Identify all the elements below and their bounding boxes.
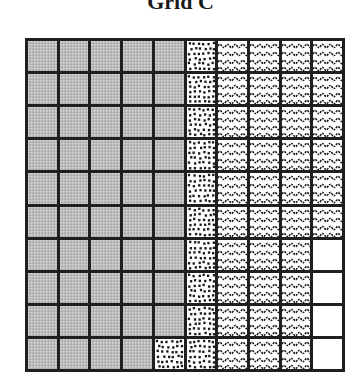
grid-cell-gray — [123, 306, 152, 336]
grid-cell-wavy — [282, 240, 311, 270]
grid-cell-gray — [60, 41, 89, 71]
grid-cell-wavy — [282, 306, 311, 336]
grid-cell-gray — [155, 240, 184, 270]
grid-cell-gray — [28, 240, 57, 270]
grid-cell-wavy — [218, 140, 247, 170]
grid-cell-wavy — [313, 107, 342, 137]
grid-cell-dotted — [187, 107, 216, 137]
grid-cell-gray — [155, 273, 184, 303]
hundred-grid — [25, 38, 345, 372]
grid-cell-wavy — [282, 339, 311, 369]
grid-cell-wavy — [282, 107, 311, 137]
grid-cell-gray — [123, 173, 152, 203]
grid-cell-gray — [91, 339, 120, 369]
grid-cell-dotted — [187, 339, 216, 369]
grid-cell-white — [313, 339, 342, 369]
grid-cell-gray — [28, 273, 57, 303]
grid-cell-dotted — [187, 41, 216, 71]
grid-cell-wavy — [282, 41, 311, 71]
grid-cell-gray — [123, 273, 152, 303]
grid-cell-gray — [91, 173, 120, 203]
grid-cell-gray — [60, 74, 89, 104]
grid-cell-wavy — [250, 41, 279, 71]
grid-cell-gray — [28, 173, 57, 203]
grid-cell-gray — [91, 107, 120, 137]
grid-cell-wavy — [313, 74, 342, 104]
grid-cell-gray — [60, 173, 89, 203]
grid-cell-wavy — [282, 207, 311, 237]
grid-cell-wavy — [250, 207, 279, 237]
grid-cell-white — [313, 306, 342, 336]
grid-cell-gray — [123, 41, 152, 71]
grid-cell-gray — [91, 306, 120, 336]
grid-cell-wavy — [218, 306, 247, 336]
grid-cell-white — [313, 273, 342, 303]
grid-cell-wavy — [313, 140, 342, 170]
grid-cell-wavy — [250, 306, 279, 336]
grid-cell-gray — [28, 41, 57, 71]
grid-cell-wavy — [218, 273, 247, 303]
grid-cell-white — [313, 240, 342, 270]
grid-cell-wavy — [218, 207, 247, 237]
grid-cell-wavy — [250, 74, 279, 104]
grid-cell-gray — [91, 207, 120, 237]
grid-cell-wavy — [313, 173, 342, 203]
grid-cell-gray — [28, 339, 57, 369]
grid-cell-gray — [60, 140, 89, 170]
grid-cell-dotted — [187, 273, 216, 303]
grid-cell-wavy — [218, 240, 247, 270]
grid-cell-dotted — [187, 74, 216, 104]
grid-cell-gray — [28, 207, 57, 237]
grid-cell-gray — [91, 74, 120, 104]
grid-cell-gray — [28, 140, 57, 170]
grid-cell-wavy — [218, 339, 247, 369]
grid-cell-gray — [91, 140, 120, 170]
grid-cell-gray — [60, 107, 89, 137]
grid-cell-gray — [155, 173, 184, 203]
grid-cell-wavy — [250, 140, 279, 170]
grid-cell-dotted — [187, 207, 216, 237]
grid-cell-gray — [155, 107, 184, 137]
grid-cell-gray — [123, 74, 152, 104]
grid-cell-gray — [60, 339, 89, 369]
grid-cell-wavy — [250, 273, 279, 303]
grid-cell-gray — [123, 107, 152, 137]
grid-cell-wavy — [250, 173, 279, 203]
grid-cell-gray — [123, 140, 152, 170]
grid-cell-wavy — [250, 240, 279, 270]
grid-cell-wavy — [282, 140, 311, 170]
grid-cell-gray — [155, 41, 184, 71]
grid-cell-gray — [60, 240, 89, 270]
grid-cell-gray — [60, 207, 89, 237]
grid-title: Grid C — [0, 0, 361, 15]
grid-cell-wavy — [282, 273, 311, 303]
grid-cell-dotted — [187, 240, 216, 270]
grid-cell-wavy — [250, 107, 279, 137]
grid-cell-wavy — [218, 74, 247, 104]
grid-cell-gray — [60, 306, 89, 336]
grid-cell-gray — [91, 240, 120, 270]
grid-cell-wavy — [250, 339, 279, 369]
grid-cell-gray — [91, 41, 120, 71]
grid-cell-gray — [155, 74, 184, 104]
grid-cell-wavy — [218, 173, 247, 203]
grid-cell-dotted — [187, 173, 216, 203]
grid-cell-gray — [155, 306, 184, 336]
grid-cell-wavy — [218, 41, 247, 71]
grid-cell-wavy — [313, 207, 342, 237]
grid-cell-gray — [123, 240, 152, 270]
grid-cell-gray — [60, 273, 89, 303]
grid-cell-wavy — [282, 74, 311, 104]
grid-cell-gray — [155, 207, 184, 237]
grid-cell-gray — [28, 74, 57, 104]
grid-cell-gray — [155, 140, 184, 170]
grid-cell-gray — [91, 273, 120, 303]
grid-cell-gray — [123, 207, 152, 237]
grid-cell-dotted — [155, 339, 184, 369]
grid-cell-gray — [28, 306, 57, 336]
grid-cell-wavy — [313, 41, 342, 71]
grid-cell-wavy — [282, 173, 311, 203]
grid-cell-wavy — [218, 107, 247, 137]
grid-cell-dotted — [187, 306, 216, 336]
grid-cell-gray — [28, 107, 57, 137]
